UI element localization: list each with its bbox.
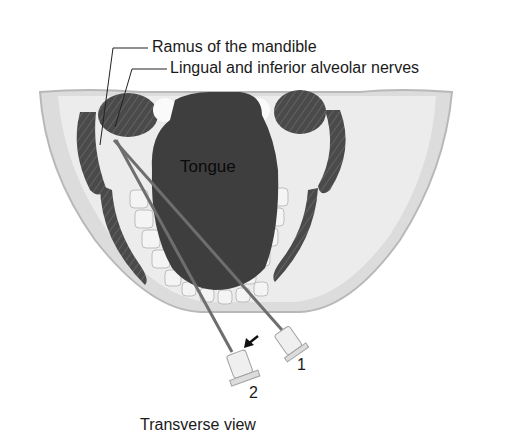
diagram: Ramus of the mandible Lingual and inferi… bbox=[0, 0, 509, 440]
tongue bbox=[152, 92, 278, 290]
label-tongue: Tongue bbox=[180, 157, 236, 177]
label-ramus: Ramus of the mandible bbox=[152, 38, 317, 56]
caption: Transverse view bbox=[140, 416, 256, 434]
muscle-left-upper bbox=[98, 93, 158, 137]
label-nerves: Lingual and inferior alveolar nerves bbox=[170, 59, 419, 77]
label-needle-1: 1 bbox=[297, 356, 306, 374]
muscle-right-upper bbox=[274, 90, 326, 134]
direction-arrow-icon bbox=[244, 336, 258, 348]
needle-2-hub bbox=[221, 348, 259, 386]
label-needle-2: 2 bbox=[249, 384, 258, 402]
